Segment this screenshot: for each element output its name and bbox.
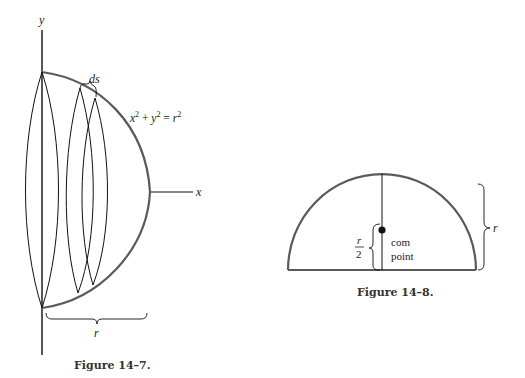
figure-14-7: y x ds x2 + y2 = r2 r Figure 14–7. xyxy=(26,13,203,372)
com-point-dot xyxy=(378,226,385,233)
figures-canvas: y x ds x2 + y2 = r2 r Figure 14–7. r 2 c… xyxy=(0,0,525,378)
radius-label: r xyxy=(94,326,99,340)
half-radius-brace xyxy=(369,224,380,270)
figure-caption: Figure 14–8. xyxy=(357,286,434,299)
ellipse-outer-right xyxy=(42,72,59,308)
half-radius-numerator: r xyxy=(357,234,362,246)
y-axis-label: y xyxy=(38,13,45,27)
equation-label: x2 + y2 = r2 xyxy=(129,110,181,125)
com-label-line1: com xyxy=(391,236,410,248)
radius-label: r xyxy=(493,221,498,235)
strip-ellipse-1-left xyxy=(66,88,80,293)
half-radius-denominator: 2 xyxy=(356,248,362,260)
ds-label: ds xyxy=(89,72,100,86)
strip-ellipse-1-right xyxy=(78,88,93,293)
com-label-line2: point xyxy=(391,250,414,262)
radius-brace-right xyxy=(478,184,490,270)
radius-brace-bottom xyxy=(46,313,147,324)
ellipse-outer-left xyxy=(26,72,43,308)
strip-ellipse-2-right xyxy=(93,98,108,285)
x-axis-label: x xyxy=(195,185,202,199)
figure-14-8: r 2 com point r Figure 14–8. xyxy=(288,174,498,299)
figure-caption: Figure 14–7. xyxy=(74,359,151,372)
